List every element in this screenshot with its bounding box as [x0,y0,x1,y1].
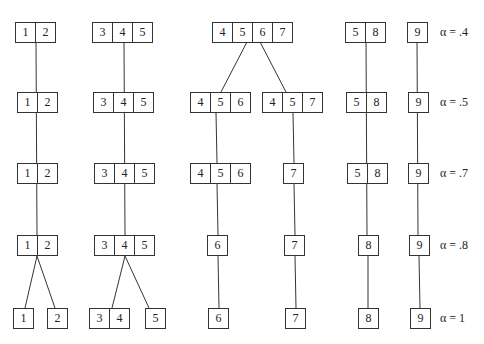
cluster-cell: 6 [252,22,273,43]
cluster-cell: 3 [94,163,115,184]
alpha-level-label: α = .5 [440,95,468,110]
cluster-cell: 5 [133,92,154,113]
cluster-cell: 8 [365,22,386,43]
cluster-cell: 1 [17,92,38,113]
cluster-cell: 4 [114,163,135,184]
cluster-cell: 4 [262,92,283,113]
cluster-cell: 1 [17,235,38,256]
cluster-cell: 3 [94,235,115,256]
cluster-cell: 1 [13,308,34,329]
cluster-cell: 8 [358,308,379,329]
cluster-cell: 9 [407,22,428,43]
cluster-cell: 7 [283,163,304,184]
cluster-cell: 4 [109,308,130,329]
cluster-cell: 6 [207,235,228,256]
cluster-cell: 7 [272,22,293,43]
cluster-cell: 4 [190,163,211,184]
cluster-cell: 3 [89,308,110,329]
cluster-cell: 2 [37,92,58,113]
cluster-cell: 5 [345,22,366,43]
cluster-cell: 5 [210,163,231,184]
cluster-cell: 2 [47,308,68,329]
cluster-cell: 6 [230,163,251,184]
cluster-cell: 2 [37,163,58,184]
cluster-cell: 3 [92,22,113,43]
cluster-cell: 4 [113,92,134,113]
cluster-cell: 5 [210,92,231,113]
cluster-cell: 5 [134,163,155,184]
alpha-level-label: α = .7 [440,166,468,181]
cluster-cell: 1 [17,163,38,184]
cluster-cell: 4 [112,22,133,43]
cluster-cell: 7 [285,308,306,329]
cluster-cell: 9 [409,235,430,256]
cluster-cell: 4 [114,235,135,256]
cluster-cell: 9 [408,92,429,113]
cluster-cell: 9 [410,308,431,329]
cluster-cell: 7 [302,92,323,113]
cluster-cell: 6 [208,308,229,329]
cluster-cell: 5 [346,92,367,113]
cluster-cell: 8 [366,92,387,113]
cluster-cell: 4 [190,92,211,113]
cluster-cell: 5 [347,163,368,184]
cluster-cell: 8 [367,163,388,184]
cluster-cell: 8 [358,235,379,256]
cluster-cell: 9 [408,163,429,184]
cluster-cell: 7 [284,235,305,256]
cluster-cell: 2 [35,22,56,43]
alpha-level-label: α = .8 [440,238,468,253]
cluster-cell: 5 [134,235,155,256]
alpha-level-label: α = .4 [440,25,468,40]
cluster-cell: 6 [230,92,251,113]
cluster-cell: 5 [145,308,166,329]
cluster-cell: 5 [282,92,303,113]
cluster-cell: 1 [15,22,36,43]
alpha-level-label: α = 1 [440,311,465,326]
cluster-cell: 5 [132,22,153,43]
cluster-cell: 2 [37,235,58,256]
cluster-cell: 5 [232,22,253,43]
cluster-cell: 3 [93,92,114,113]
cluster-cell: 4 [212,22,233,43]
